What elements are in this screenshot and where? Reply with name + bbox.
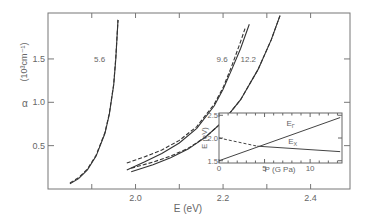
inset-plot: 05101.52.02.5P (G Pa)E (eV)EΓEX <box>200 111 342 174</box>
inset-y-tick-label: 2.0 <box>208 134 218 143</box>
x-tick-label: 2.4 <box>304 193 317 203</box>
curve-5-6 <box>70 20 118 184</box>
y-tick-label: 1.5 <box>32 54 45 64</box>
pressure-label: 9.6 <box>217 55 229 64</box>
chart-svg: 2.02.22.40.51.01.5 5.69.612.2 05101.52.0… <box>0 0 367 224</box>
absorption-chart: 2.02.22.40.51.01.5 5.69.612.2 05101.52.0… <box>0 0 367 224</box>
y-tick-label: 0.5 <box>32 141 45 151</box>
inset-x-tick-label: 10 <box>306 164 315 173</box>
x-axis-label: E (eV) <box>174 203 202 214</box>
y-axis-symbol: α <box>22 98 28 109</box>
y-axis-unit: (10³cm⁻¹) <box>19 43 29 82</box>
inset-x-axis-label: P (G Pa) <box>265 165 296 174</box>
x-tick-label: 2.2 <box>217 193 230 203</box>
inset-y-tick-label: 2.5 <box>208 111 218 120</box>
pressure-label: 12.2 <box>241 55 257 64</box>
inset-y-axis-label: E (eV) <box>200 127 209 149</box>
pressure-label: 5.6 <box>94 55 106 64</box>
inset-frame <box>219 113 342 163</box>
main-plot-area: 2.02.22.40.51.01.5 <box>32 13 350 203</box>
x-tick-label: 2.0 <box>129 193 142 203</box>
y-tick-label: 1.0 <box>32 97 45 107</box>
inset-y-tick-label: 1.5 <box>208 157 218 166</box>
